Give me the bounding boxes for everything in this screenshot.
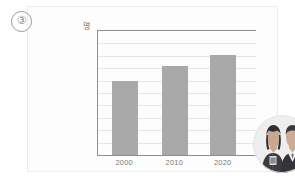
x-axis-labels: 2000 2010 2020 xyxy=(97,158,256,170)
people-photo xyxy=(253,115,295,173)
x-tick-label: 2000 xyxy=(111,158,137,168)
two-people-illustration xyxy=(253,115,295,173)
x-tick-label: 2010 xyxy=(161,158,187,168)
bar-slot xyxy=(210,31,236,155)
y-axis-unit-label: 명 xyxy=(83,22,90,31)
bar-2010 xyxy=(162,66,188,155)
bar-2020 xyxy=(210,55,236,155)
bar-series xyxy=(98,31,256,155)
item-number-marker: ③ xyxy=(11,11,32,32)
screenshot-root: 명 2000 2010 2020 xyxy=(0,0,295,185)
plot-area xyxy=(97,30,256,156)
bar-slot xyxy=(162,31,188,155)
bar-slot xyxy=(112,31,138,155)
content-card: 명 2000 2010 2020 xyxy=(27,6,278,172)
bar-2000 xyxy=(112,81,138,155)
x-tick-label: 2020 xyxy=(210,158,236,168)
bar-chart: 명 2000 2010 2020 xyxy=(73,23,258,167)
